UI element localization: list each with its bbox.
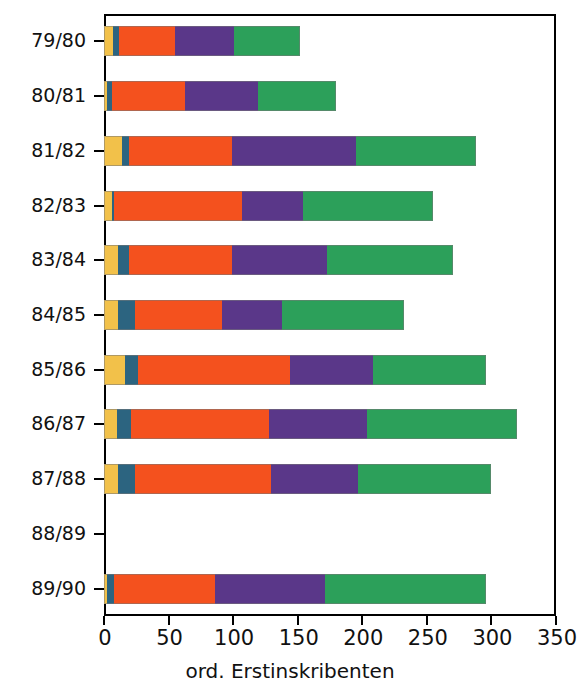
stacked-bar-chart: 79/8080/8181/8282/8383/8484/8585/8686/87… bbox=[0, 0, 580, 696]
bar-segment-4 bbox=[185, 81, 257, 111]
bar-row bbox=[104, 300, 404, 330]
x-axis-tick-label: 300 bbox=[462, 627, 522, 649]
x-axis-tick bbox=[426, 616, 428, 625]
bar-row bbox=[104, 409, 517, 439]
x-axis-tick-label: 100 bbox=[204, 627, 264, 649]
bar-segment-5 bbox=[367, 409, 517, 439]
bar-segment-1 bbox=[104, 300, 118, 330]
bar-segment-4 bbox=[232, 136, 356, 166]
x-axis-tick bbox=[297, 616, 299, 625]
bar-segment-2 bbox=[125, 355, 138, 385]
y-axis-tick-label: 82/83 bbox=[0, 196, 86, 215]
x-axis-title: ord. Erstinskribenten bbox=[0, 660, 580, 682]
y-axis-tick-label: 87/88 bbox=[0, 469, 86, 488]
bar-segment-4 bbox=[290, 355, 373, 385]
x-axis-tick bbox=[232, 616, 234, 625]
bars-layer bbox=[104, 14, 556, 616]
bar-segment-5 bbox=[356, 136, 476, 166]
bar-segment-1 bbox=[104, 409, 117, 439]
scan-artifact bbox=[30, 0, 39, 7]
bar-segment-2 bbox=[118, 245, 128, 275]
bar-segment-4 bbox=[271, 464, 359, 494]
y-axis-tick-label: 86/87 bbox=[0, 414, 86, 433]
bar-segment-5 bbox=[358, 464, 491, 494]
y-axis-tick-label: 80/81 bbox=[0, 86, 86, 105]
bar-segment-5 bbox=[327, 245, 452, 275]
bar-row bbox=[104, 136, 476, 166]
bar-segment-5 bbox=[303, 191, 433, 221]
bar-segment-5 bbox=[234, 26, 300, 56]
x-axis-tick-label: 150 bbox=[269, 627, 329, 649]
bar-segment-1 bbox=[104, 355, 125, 385]
y-axis-tick-label: 79/80 bbox=[0, 31, 86, 50]
bar-row bbox=[104, 464, 491, 494]
y-axis-category-labels: 79/8080/8181/8282/8383/8484/8585/8686/87… bbox=[0, 14, 96, 616]
bar-segment-3 bbox=[114, 574, 215, 604]
bar-segment-4 bbox=[242, 191, 303, 221]
bar-segment-2 bbox=[117, 409, 131, 439]
bar-segment-4 bbox=[215, 574, 325, 604]
bar-segment-4 bbox=[232, 245, 328, 275]
bar-segment-3 bbox=[138, 355, 290, 385]
bar-segment-3 bbox=[112, 81, 186, 111]
bar-segment-3 bbox=[129, 245, 232, 275]
bar-row bbox=[104, 26, 300, 56]
x-axis-tick-label: 350 bbox=[527, 627, 580, 649]
bar-segment-4 bbox=[222, 300, 283, 330]
bar-segment-3 bbox=[131, 409, 269, 439]
bar-segment-5 bbox=[373, 355, 487, 385]
bar-segment-2 bbox=[118, 300, 135, 330]
bar-segment-3 bbox=[135, 464, 271, 494]
bar-segment-3 bbox=[135, 300, 222, 330]
bar-row bbox=[104, 81, 336, 111]
x-axis-tick bbox=[555, 616, 557, 625]
x-axis-tick-label: 0 bbox=[75, 627, 135, 649]
bar-segment-2 bbox=[107, 574, 115, 604]
x-axis-tick bbox=[361, 616, 363, 625]
bar-segment-4 bbox=[269, 409, 367, 439]
bar-segment-4 bbox=[175, 26, 234, 56]
x-axis-tick bbox=[168, 616, 170, 625]
x-axis-tick-label: 250 bbox=[398, 627, 458, 649]
y-axis-tick-label: 85/86 bbox=[0, 360, 86, 379]
x-axis-tick bbox=[490, 616, 492, 625]
x-axis-tick-label: 200 bbox=[333, 627, 393, 649]
y-axis-tick-label: 88/89 bbox=[0, 524, 86, 543]
bar-row bbox=[104, 245, 453, 275]
bar-row bbox=[104, 574, 486, 604]
bar-row bbox=[104, 355, 486, 385]
y-axis-tick-label: 84/85 bbox=[0, 305, 86, 324]
bar-segment-5 bbox=[282, 300, 403, 330]
bar-segment-3 bbox=[114, 191, 242, 221]
bar-segment-1 bbox=[104, 191, 112, 221]
bar-segment-5 bbox=[325, 574, 486, 604]
bar-segment-1 bbox=[104, 245, 118, 275]
bar-segment-5 bbox=[258, 81, 337, 111]
y-axis-tick-label: 89/90 bbox=[0, 579, 86, 598]
bar-segment-2 bbox=[118, 464, 135, 494]
x-axis-tick-label: 50 bbox=[140, 627, 200, 649]
bar-segment-1 bbox=[104, 464, 118, 494]
bar-segment-1 bbox=[104, 136, 122, 166]
bar-segment-3 bbox=[129, 136, 232, 166]
bar-segment-1 bbox=[104, 26, 113, 56]
bar-row bbox=[104, 191, 433, 221]
y-axis-tick-label: 81/82 bbox=[0, 141, 86, 160]
bar-segment-3 bbox=[119, 26, 175, 56]
y-axis-tick-label: 83/84 bbox=[0, 250, 86, 269]
x-axis-tick bbox=[103, 616, 105, 625]
